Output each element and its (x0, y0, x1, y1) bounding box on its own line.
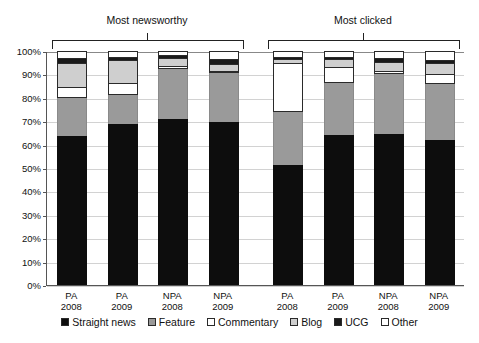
stacked-bar[interactable] (57, 51, 87, 285)
y-axis-tick-mark (43, 239, 46, 240)
y-axis-tick-label: 90% (22, 69, 41, 80)
y-axis-tick-mark (43, 99, 46, 100)
y-axis-tick-label: 60% (22, 140, 41, 151)
stacked-bar[interactable] (158, 51, 188, 285)
legend-swatch-icon (61, 318, 69, 326)
x-axis-tick-label: NPA 2008 (145, 291, 199, 312)
group-bracket-tick-most-newsworthy (147, 33, 148, 40)
y-axis-tick-label: 20% (22, 233, 41, 244)
bar-segment-other (374, 51, 404, 58)
stacked-bar[interactable] (324, 51, 354, 285)
bar-segment-straight-news (158, 119, 188, 285)
y-axis-tick-mark (43, 75, 46, 76)
y-axis-tick-label: 30% (22, 210, 41, 221)
bar-segment-blog (158, 58, 188, 66)
y-axis-tick-mark (43, 122, 46, 123)
legend-label: Commentary (218, 316, 278, 328)
legend-item[interactable]: Blog (290, 316, 322, 328)
group-bracket-tick-most-clicked (363, 33, 364, 40)
bar-segment-straight-news (324, 135, 354, 285)
legend-swatch-icon (207, 318, 215, 326)
x-axis-tick-label: PA 2008 (260, 291, 314, 312)
legend-item[interactable]: UCG (334, 316, 368, 328)
x-axis-tick-label: PA 2008 (44, 291, 98, 312)
bar-segment-feature (57, 98, 87, 137)
y-axis-tick-label: 70% (22, 116, 41, 127)
y-axis-tick-mark (43, 192, 46, 193)
x-axis-tick-label: NPA 2009 (196, 291, 250, 312)
y-axis-tick-label: 100% (17, 46, 41, 57)
chart-legend: Straight newsFeatureCommentaryBlogUCGOth… (0, 316, 479, 328)
bar-segment-feature (273, 112, 303, 165)
bar-segment-feature (324, 83, 354, 136)
group-bracket-most-newsworthy (52, 40, 244, 49)
legend-label: Other (392, 316, 418, 328)
y-axis-tick-mark (43, 146, 46, 147)
x-axis-tick-label: PA 2009 (95, 291, 149, 312)
y-axis-tick-label: 10% (22, 257, 41, 268)
legend-label: Feature (159, 316, 195, 328)
y-axis-tick-label: 0% (27, 280, 41, 291)
bar-segment-straight-news (108, 124, 138, 285)
legend-item[interactable]: Other (381, 316, 418, 328)
legend-item[interactable]: Commentary (207, 316, 278, 328)
bar-segment-straight-news (425, 140, 455, 285)
y-axis-tick-label: 80% (22, 93, 41, 104)
legend-swatch-icon (148, 318, 156, 326)
legend-label: Straight news (72, 316, 136, 328)
bar-segment-blog (374, 62, 404, 71)
bar-segment-other (209, 51, 239, 59)
chart-figure: Most newsworthy Most clicked 0%10%20%30%… (0, 0, 479, 343)
bar-segment-feature (108, 95, 138, 123)
legend-item[interactable]: Feature (148, 316, 195, 328)
y-axis-tick-mark (43, 216, 46, 217)
bar-segment-feature (158, 69, 188, 119)
bar-segment-commentary (324, 67, 354, 82)
y-axis-tick-label: 40% (22, 186, 41, 197)
y-axis-tick-mark (43, 52, 46, 53)
bar-segment-other (425, 51, 455, 60)
stacked-bar[interactable] (209, 51, 239, 285)
bar-segment-commentary (57, 87, 87, 98)
bar-segment-blog (57, 63, 87, 88)
bar-segment-blog (324, 59, 354, 67)
stacked-bar[interactable] (425, 51, 455, 285)
x-axis-tick-label: NPA 2008 (361, 291, 415, 312)
legend-swatch-icon (381, 318, 389, 326)
group-label-most-newsworthy: Most newsworthy (107, 14, 188, 26)
gridline (47, 286, 464, 287)
y-axis-tick-label: 50% (22, 163, 41, 174)
bar-segment-commentary (425, 74, 455, 83)
group-bracket-most-clicked (268, 40, 460, 49)
stacked-bar[interactable] (273, 51, 303, 285)
legend-item[interactable]: Straight news (61, 316, 136, 328)
bar-segment-straight-news (374, 134, 404, 285)
bar-segment-commentary (108, 83, 138, 96)
x-axis-tick-label: NPA 2009 (412, 291, 466, 312)
bar-segment-blog (108, 60, 138, 82)
bar-segment-feature (209, 73, 239, 122)
bar-segment-feature (425, 84, 455, 140)
y-axis-tick-mark (43, 169, 46, 170)
bar-segment-feature (374, 74, 404, 134)
bar-segment-blog (209, 64, 239, 71)
bar-segment-blog (425, 63, 455, 75)
legend-swatch-icon (290, 318, 298, 326)
bar-segment-straight-news (57, 136, 87, 285)
plot-area (46, 52, 464, 286)
stacked-bar[interactable] (108, 51, 138, 285)
x-axis-tick-label: PA 2009 (311, 291, 365, 312)
bar-segment-straight-news (273, 165, 303, 286)
bar-segment-straight-news (209, 122, 239, 285)
legend-label: UCG (345, 316, 368, 328)
legend-label: Blog (301, 316, 322, 328)
y-axis-tick-mark (43, 286, 46, 287)
stacked-bar[interactable] (374, 51, 404, 285)
bar-segment-commentary (273, 63, 303, 112)
group-label-most-clicked: Most clicked (334, 14, 392, 26)
y-axis-tick-mark (43, 263, 46, 264)
legend-swatch-icon (334, 318, 342, 326)
bar-segment-other (57, 51, 87, 58)
